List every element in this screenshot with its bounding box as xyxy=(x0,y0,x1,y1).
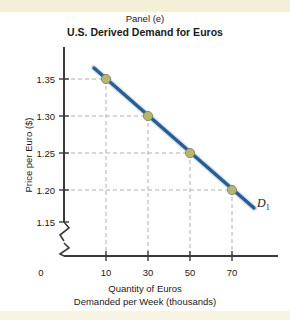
origin-label: 0 xyxy=(38,267,43,278)
caption-line-2: Demanded per Week (thousands) xyxy=(0,296,290,309)
ytick-label-125: 1.25 xyxy=(37,148,56,159)
xtick-label-30: 30 xyxy=(143,267,154,278)
ytick-label-130: 1.30 xyxy=(37,111,56,122)
vertical-gridlines xyxy=(106,79,232,256)
ytick-label-135: 1.35 xyxy=(37,74,56,85)
y-axis-break-lower xyxy=(60,243,69,256)
bottom-paper-band xyxy=(0,311,290,320)
ytick-label-115: 1.15 xyxy=(37,217,56,228)
y-axis-title: Price per Euro ($) xyxy=(23,118,34,193)
data-point-10-135[interactable] xyxy=(101,74,110,83)
xtick-label-50: 50 xyxy=(185,267,196,278)
demand-curve-label-letter: D xyxy=(256,196,266,210)
xtick-label-10: 10 xyxy=(101,267,112,278)
demand-curve-label: D1 xyxy=(256,196,270,212)
ytick-label-120: 1.20 xyxy=(37,185,56,196)
figure-container: Panel (e) U.S. Derived Demand for Euros xyxy=(0,0,290,320)
xtick-label-70: 70 xyxy=(227,267,238,278)
y-axis-break-upper xyxy=(60,222,69,241)
x-axis-caption: Quantity of Euros Demanded per Week (tho… xyxy=(0,283,290,308)
caption-line-1: Quantity of Euros xyxy=(0,283,290,296)
data-point-30-130[interactable] xyxy=(143,111,152,120)
demand-curve-chart: 1.35 1.30 1.25 1.20 1.15 10 30 50 70 0 P… xyxy=(0,0,290,320)
data-point-50-125[interactable] xyxy=(185,148,194,157)
demand-curve-label-subscript: 1 xyxy=(266,203,270,212)
data-point-70-120[interactable] xyxy=(227,185,236,194)
